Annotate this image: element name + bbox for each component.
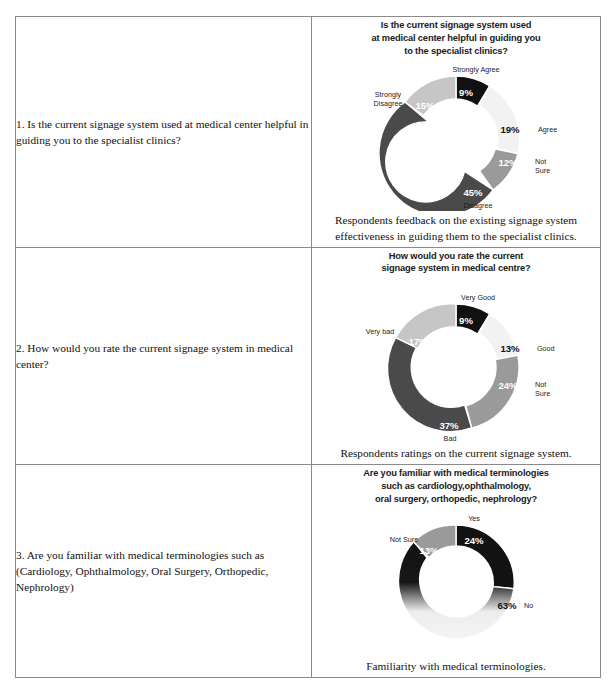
label-bad: Bad xyxy=(444,434,457,443)
donut-chart-2: Very Good Good Not Sure Bad Very bad 9% … xyxy=(322,279,590,444)
label-not-sure: Not Sure xyxy=(390,535,418,544)
label-disagree: Disagree xyxy=(464,201,493,210)
question-text-2: 2. How would you rate the current signag… xyxy=(16,342,293,370)
slice-bad xyxy=(388,338,472,432)
label-strongly-agree: Strongly Agree xyxy=(452,65,499,74)
label-not-sure-line1: Not xyxy=(535,157,546,166)
table-row: 2. How would you rate the current signag… xyxy=(16,247,601,464)
chart-cell-3: Are you familiar with medical terminolog… xyxy=(312,464,601,677)
donut-chart-2-svg: Very Good Good Not Sure Bad Very bad 9% … xyxy=(322,279,590,444)
top-cutoff-text xyxy=(0,0,612,12)
value-not-sure: 12% xyxy=(498,157,518,168)
chart-caption-1: Respondents feedback on the existing sig… xyxy=(312,213,600,246)
slice-not-sure xyxy=(466,355,519,428)
chart-title-3-line-3: oral surgery, orthopedic, nephrology? xyxy=(375,494,537,504)
label-not-sure-line2: Sure xyxy=(535,166,550,175)
question-text-3: 3. Are you familiar with medical termino… xyxy=(16,549,268,593)
slice-agree xyxy=(479,86,520,154)
question-cell-3: 3. Are you familiar with medical termino… xyxy=(16,464,312,677)
donut-chart-3-svg: Yes No Not Sure 24% 63% 13% xyxy=(322,509,590,657)
value-yes: 24% xyxy=(464,535,484,546)
value-bad: 37% xyxy=(439,420,459,431)
chart-title-3-line-1: Are you familiar with medical terminolog… xyxy=(363,468,549,478)
label-agree: Agree xyxy=(538,125,557,134)
chart-title-1-line-1: Is the current signage system used xyxy=(381,20,531,30)
label-good: Good xyxy=(537,344,555,353)
label-no: No xyxy=(524,601,533,610)
label-not-sure-line1: Not xyxy=(535,380,546,389)
chart-title-3: Are you familiar with medical terminolog… xyxy=(312,467,600,505)
chart-title-1: Is the current signage system used at me… xyxy=(312,19,600,57)
question-text-1: 1. Is the current signage system used at… xyxy=(16,118,308,146)
chart-caption-1-line-2: in guiding them to the specialist clinic… xyxy=(397,230,577,242)
slice-not-sure xyxy=(480,149,518,190)
chart-title-2-line-2: signage system in medical centre? xyxy=(381,263,530,273)
label-not-sure-line2: Sure xyxy=(535,389,550,398)
value-not-sure: 24% xyxy=(498,380,518,391)
chart-title-1-line-2: at medical center helpful in guiding you xyxy=(371,33,540,43)
label-strongly-disagree-line1: Strongly xyxy=(375,90,402,99)
chart-cell-1: Is the current signage system used at me… xyxy=(312,17,601,248)
chart-caption-3: Familiarity with medical terminologies. xyxy=(312,659,600,677)
value-agree: 19% xyxy=(500,124,520,135)
chart-title-1-line-3: to the specialist clinics? xyxy=(404,46,508,56)
chart-title-3-line-2: such as cardiology,ophthalmology, xyxy=(381,481,531,491)
value-not-sure: 13% xyxy=(419,545,439,556)
table-row: 1. Is the current signage system used at… xyxy=(16,17,601,248)
value-very-bad: 17% xyxy=(408,336,428,347)
value-strongly-disagree: 15% xyxy=(415,100,435,111)
chart-title-2-line-1: How would you rate the current xyxy=(389,251,523,261)
value-no: 63% xyxy=(497,600,517,611)
chart-caption-2: Respondents ratings on the current signa… xyxy=(312,446,600,464)
label-strongly-disagree-line2: Disagree xyxy=(374,99,403,108)
chart-caption-3-line-1: Familiarity with medical terminologies. xyxy=(366,660,545,672)
value-very-good: 9% xyxy=(459,315,473,326)
donut-chart-1-svg: Strongly Agree Agree Not Sure Disagree S… xyxy=(322,61,590,211)
survey-results-table: 1. Is the current signage system used at… xyxy=(15,16,601,678)
value-disagree: 45% xyxy=(463,187,483,198)
label-yes: Yes xyxy=(468,514,480,523)
value-strongly-agree: 9% xyxy=(459,87,473,98)
label-very-bad: Very bad xyxy=(366,327,394,336)
donut-chart-3: Yes No Not Sure 24% 63% 13% xyxy=(322,509,590,657)
label-very-good: Very Good xyxy=(461,293,495,302)
chart-cell-2: How would you rate the current signage s… xyxy=(312,247,601,464)
donut-chart-1: Strongly Agree Agree Not Sure Disagree S… xyxy=(322,61,590,211)
question-cell-1: 1. Is the current signage system used at… xyxy=(16,17,312,248)
chart-caption-2-line-1: Respondents ratings on the current signa… xyxy=(340,447,571,459)
table-row: 3. Are you familiar with medical termino… xyxy=(16,464,601,677)
question-cell-2: 2. How would you rate the current signag… xyxy=(16,247,312,464)
chart-title-2: How would you rate the current signage s… xyxy=(312,250,600,276)
value-good: 13% xyxy=(500,343,520,354)
